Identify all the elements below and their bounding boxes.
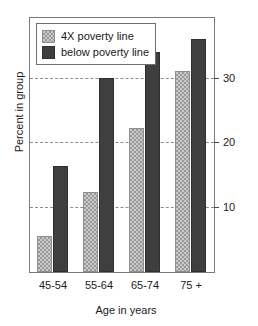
y-tick-label-10: 10 xyxy=(223,201,235,213)
bar-45-54-series1 xyxy=(37,236,52,272)
bar-45-54-series2 xyxy=(53,166,68,272)
bar-65-74-series2 xyxy=(145,52,160,272)
x-tick-label-75: 75 + xyxy=(161,279,221,291)
y-tick-label-20: 20 xyxy=(223,136,235,148)
legend-label: below poverty line xyxy=(61,46,149,59)
bar-65-74-series1 xyxy=(129,128,144,272)
y-tick-20 xyxy=(214,142,219,143)
legend-item-4x-poverty-line: 4X poverty line xyxy=(42,28,149,44)
y-axis-title: Percent in group xyxy=(13,47,25,177)
y-tick-label-30: 30 xyxy=(223,72,235,84)
x-axis-title: Age in years xyxy=(28,304,224,316)
dark-solid-swatch-icon xyxy=(42,46,55,59)
bar-75-series1 xyxy=(175,71,190,272)
bar-55-64-series1 xyxy=(83,192,98,272)
y-tick-30 xyxy=(214,78,219,79)
y-tick-10 xyxy=(214,207,219,208)
chart-legend: 4X poverty line below poverty line xyxy=(36,23,156,65)
poverty-by-age-bar-chart: Percent in group 102030 Age in years 4X … xyxy=(0,0,258,326)
bar-75-series2 xyxy=(191,39,206,272)
legend-label: 4X poverty line xyxy=(61,30,134,43)
light-hatched-swatch-icon xyxy=(42,30,55,43)
legend-item-below-poverty-line: below poverty line xyxy=(42,44,149,60)
bar-55-64-series2 xyxy=(99,78,114,272)
